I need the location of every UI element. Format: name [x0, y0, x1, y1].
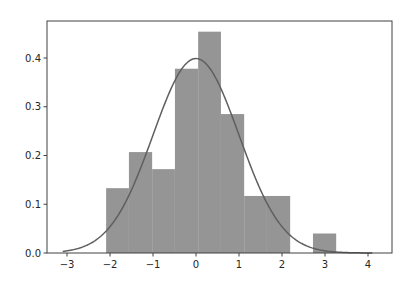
y-tick-label: 0.2 — [25, 150, 41, 161]
histogram-bars — [106, 32, 336, 253]
x-tick-label: 4 — [365, 259, 371, 270]
histogram-bar — [152, 169, 175, 253]
x-tick-label: 3 — [322, 259, 328, 270]
histogram-bar — [198, 32, 221, 253]
x-axis-ticks: −3−2−101234 — [60, 253, 372, 270]
x-tick-label: −1 — [146, 259, 161, 270]
x-tick-label: −3 — [60, 259, 75, 270]
x-tick-label: 2 — [279, 259, 285, 270]
histogram-bar — [175, 69, 198, 253]
histogram-bar — [244, 196, 267, 253]
histogram-chart: −3−2−101234 0.00.10.20.30.4 — [0, 0, 414, 289]
y-tick-label: 0.0 — [25, 248, 41, 259]
y-axis-ticks: 0.00.10.20.30.4 — [25, 53, 47, 259]
histogram-bar — [267, 196, 290, 253]
y-tick-label: 0.3 — [25, 101, 41, 112]
y-tick-label: 0.4 — [25, 53, 41, 64]
x-tick-label: 1 — [236, 259, 242, 270]
x-tick-label: −2 — [103, 259, 118, 270]
x-tick-label: 0 — [193, 259, 199, 270]
y-tick-label: 0.1 — [25, 199, 41, 210]
histogram-bar — [106, 188, 129, 253]
histogram-bar — [221, 114, 244, 253]
